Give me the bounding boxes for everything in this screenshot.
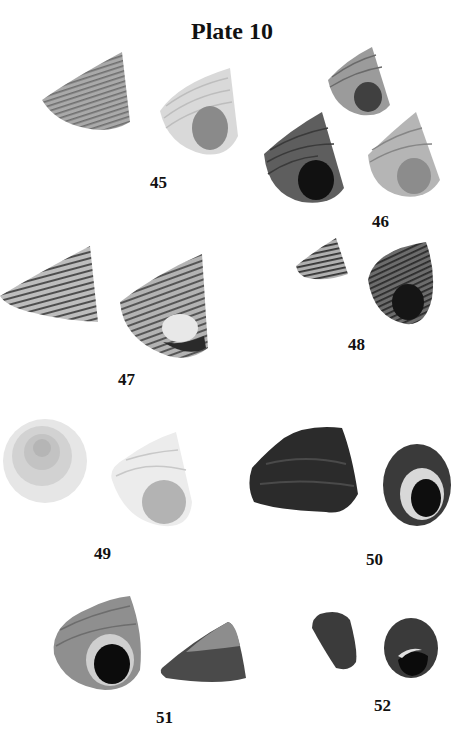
shell-47-apertural (118, 252, 210, 362)
shell-51-dorsal (158, 620, 248, 686)
shell-50-apertural (380, 442, 454, 528)
shell-46-light (366, 110, 442, 200)
figure-label-49: 49 (94, 544, 111, 564)
shell-50-dorsal (246, 424, 360, 516)
figure-label-52: 52 (374, 696, 391, 716)
shell-48-dorsal (296, 236, 350, 282)
shell-52-apertural (382, 616, 440, 680)
shell-52-dorsal (310, 610, 360, 670)
figure-label-50: 50 (366, 550, 383, 570)
shell-47-dorsal (0, 244, 100, 326)
figure-label-48: 48 (348, 335, 365, 355)
shell-45-apertural-dorsal (40, 50, 132, 134)
figure-label-51: 51 (156, 708, 173, 728)
figure-label-46: 46 (372, 212, 389, 232)
shell-51-apertural (50, 594, 144, 692)
shell-46-top (326, 45, 392, 117)
figure-label-47: 47 (118, 370, 135, 390)
shell-46-dark (262, 110, 346, 206)
shell-49-apical (0, 416, 90, 506)
figure-label-45: 45 (150, 173, 167, 193)
shell-48-apertural (366, 240, 436, 326)
shell-45-apertural (158, 66, 240, 158)
plate-title: Plate 10 (0, 18, 464, 45)
shell-49-apertural (106, 430, 196, 530)
